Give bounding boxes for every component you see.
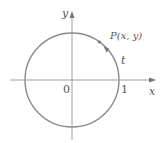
x-tick-label-1: 1 [121,83,128,96]
point-p [98,40,101,43]
y-axis-label: y [61,7,69,20]
arc-length-label: t [121,54,126,67]
y-axis-arrow-icon [70,11,75,18]
origin-label: 0 [63,83,70,96]
x-axis-label: x [149,85,156,98]
point-label: P(x, y) [109,30,142,41]
unit-circle-diagram: y x 0 1 P(x, y) t [0,0,164,143]
x-axis-arrow-icon [149,78,156,83]
